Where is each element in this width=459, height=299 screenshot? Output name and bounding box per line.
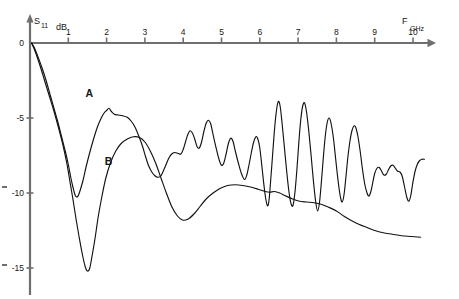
x-tick-label: 4 (181, 27, 186, 37)
data-curves (32, 43, 425, 271)
y-tick-label: -15 (12, 263, 25, 273)
x-tick-label: 9 (372, 27, 377, 37)
x-tick-label: 5 (219, 27, 224, 37)
axis-tick-labels: 123456789100-5-10-15S11dBFGHz (12, 16, 425, 273)
x-axis-arrowhead (427, 39, 436, 47)
chart-svg: 123456789100-5-10-15S11dBFGHz AB (0, 0, 459, 299)
y-tick-label: -5 (16, 113, 24, 123)
y-tick-label: 0 (19, 38, 24, 48)
y-axis-arrowhead (26, 14, 33, 23)
axes-group (2, 14, 436, 295)
x-tick-label: 2 (104, 27, 109, 37)
y-tick-label: -10 (12, 188, 25, 198)
x-tick-label: 3 (143, 27, 148, 37)
x-tick-label: 7 (296, 27, 301, 37)
chart-container: 123456789100-5-10-15S11dBFGHz AB S 11 dB… (0, 0, 459, 299)
x-axis-ticks (68, 38, 413, 43)
y-axis-title-subscript-text: 11 (41, 22, 48, 29)
x-axis-title-text: F (402, 16, 408, 26)
x-axis-unit-text: GHz (410, 25, 425, 32)
curve-label-a: A (86, 87, 94, 99)
curve-label-b: B (105, 155, 113, 167)
x-tick-label: 6 (257, 27, 262, 37)
y-axis-title-text: S (34, 16, 40, 26)
y-axis-unit-text: dB (56, 22, 67, 32)
x-tick-label: 8 (334, 27, 339, 37)
curve-b (32, 43, 421, 271)
